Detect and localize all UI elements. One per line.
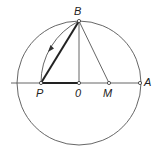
- label-O: 0: [75, 88, 81, 99]
- label-A: A: [144, 77, 151, 88]
- label-P: P: [36, 88, 43, 99]
- diagram-canvas: [0, 0, 158, 154]
- arc-arrow-icon: [48, 45, 54, 52]
- point-P-marker: [39, 81, 42, 84]
- point-O-marker: [77, 81, 80, 84]
- label-M: M: [103, 88, 112, 99]
- segment-MB: [79, 21, 109, 83]
- point-A-marker: [138, 81, 141, 84]
- point-M-marker: [107, 81, 110, 84]
- point-B-marker: [77, 19, 80, 22]
- pentagon-construction-diagram: B P 0 M A: [0, 0, 158, 154]
- label-B: B: [74, 6, 81, 17]
